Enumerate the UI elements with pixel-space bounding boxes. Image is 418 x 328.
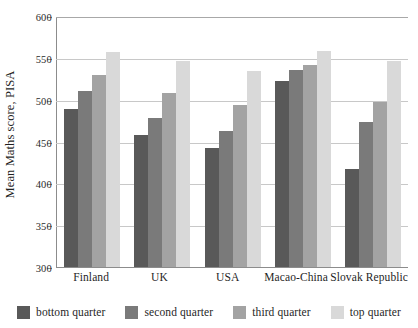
bar-bottom-quarter-finland <box>64 109 78 267</box>
x-label-slovak-republic: Slovak Republic <box>330 271 408 283</box>
y-axis-title: Mean Maths score, PISA <box>0 0 22 268</box>
legend-item-second-quarter[interactable]: second quarter <box>125 306 213 319</box>
x-label-macao-china: Macao-China <box>262 271 330 283</box>
plot-area <box>56 17 408 268</box>
legend-swatch-icon <box>125 306 138 319</box>
x-axis-category-labels: FinlandUKUSAMacao-ChinaSlovak Republic <box>57 271 408 283</box>
bar-third-quarter-finland <box>92 75 106 267</box>
legend-swatch-icon <box>331 306 344 319</box>
x-label-uk: UK <box>125 271 193 283</box>
bar-chart: Mean Maths score, PISA 30035040045050055… <box>0 0 418 328</box>
bar-second-quarter-slovak-republic <box>359 122 373 267</box>
x-label-usa: USA <box>194 271 262 283</box>
y-tick-label-550: 550 <box>26 53 52 64</box>
bar-third-quarter-macao-china <box>303 65 317 267</box>
bar-second-quarter-finland <box>78 91 92 267</box>
bar-top-quarter-usa <box>247 71 261 267</box>
y-tick-label-450: 450 <box>26 137 52 148</box>
chart-legend: bottom quartersecond quarterthird quarte… <box>0 300 418 324</box>
bar-third-quarter-uk <box>162 93 176 267</box>
y-tick-label-500: 500 <box>26 95 52 106</box>
bar-group-macao-china <box>268 17 338 267</box>
bar-groups <box>57 17 408 267</box>
legend-item-bottom-quarter[interactable]: bottom quarter <box>17 306 105 319</box>
x-axis-line <box>56 267 408 268</box>
bar-bottom-quarter-uk <box>134 135 148 267</box>
legend-label: third quarter <box>252 306 310 318</box>
bar-bottom-quarter-usa <box>205 148 219 267</box>
bar-bottom-quarter-macao-china <box>275 81 289 267</box>
y-tick-label-300: 300 <box>26 263 52 274</box>
bar-second-quarter-usa <box>219 131 233 267</box>
bar-third-quarter-slovak-republic <box>373 102 387 267</box>
legend-label: second quarter <box>144 306 213 318</box>
bar-top-quarter-slovak-republic <box>387 61 401 267</box>
y-tick-label-600: 600 <box>26 12 52 23</box>
legend-item-top-quarter[interactable]: top quarter <box>331 306 401 319</box>
x-label-finland: Finland <box>57 271 125 283</box>
legend-item-third-quarter[interactable]: third quarter <box>233 306 310 319</box>
legend-swatch-icon <box>17 306 30 319</box>
bar-group-usa <box>197 17 267 267</box>
bar-bottom-quarter-slovak-republic <box>345 169 359 267</box>
y-tick-label-400: 400 <box>26 179 52 190</box>
bar-group-uk <box>127 17 197 267</box>
bar-second-quarter-macao-china <box>289 70 303 267</box>
legend-label: top quarter <box>350 306 401 318</box>
bar-top-quarter-macao-china <box>317 51 331 267</box>
y-axis-title-text: Mean Maths score, PISA <box>4 70 19 198</box>
bar-group-finland <box>57 17 127 267</box>
legend-label: bottom quarter <box>36 306 105 318</box>
bar-group-slovak-republic <box>338 17 408 267</box>
bar-top-quarter-finland <box>106 52 120 267</box>
y-tick-label-350: 350 <box>26 221 52 232</box>
bar-third-quarter-usa <box>233 105 247 267</box>
legend-swatch-icon <box>233 306 246 319</box>
y-axis-tick-labels: 300350400450500550600 <box>22 17 52 268</box>
bar-top-quarter-uk <box>176 61 190 267</box>
bar-second-quarter-uk <box>148 118 162 267</box>
